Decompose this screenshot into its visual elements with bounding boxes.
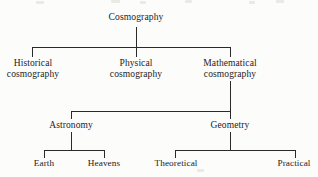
- edge-to-historical: [32, 47, 33, 57]
- scan-artifact: [197, 169, 204, 172]
- node-geometry: Geometry: [198, 120, 262, 130]
- scan-artifact: [140, 1, 146, 4]
- edge-to-practical: [295, 150, 296, 158]
- scan-artifact: [36, 1, 44, 4]
- scan-artifact: [276, 0, 284, 3]
- edge-to-earth: [44, 150, 45, 158]
- edge-level3-bus: [71, 111, 231, 112]
- node-astronomy: Astronomy: [39, 120, 103, 130]
- scan-artifact: [249, 1, 255, 4]
- node-cosmography: Cosmography: [96, 12, 176, 22]
- node-historical-cosmography: Historical cosmography: [2, 58, 64, 79]
- edge-mathematical-stem: [230, 81, 231, 112]
- edge-root-stem: [136, 27, 137, 48]
- edge-to-astronomy: [71, 111, 72, 119]
- scan-artifact: [111, 0, 120, 3]
- edge-geometry-bus: [175, 150, 296, 151]
- scan-artifact: [185, 0, 192, 3]
- edge-astronomy-stem: [71, 132, 72, 150]
- edge-to-heavens: [104, 150, 105, 158]
- node-practical: Practical: [270, 159, 318, 169]
- edge-geometry-stem: [230, 132, 231, 150]
- node-heavens: Heavens: [80, 159, 128, 169]
- edge-to-physical: [136, 47, 137, 57]
- node-mathematical-cosmography: Mathematical cosmography: [196, 58, 264, 79]
- edge-astronomy-bus: [44, 150, 105, 151]
- edge-to-theoretical: [175, 150, 176, 158]
- node-theoretical: Theoretical: [148, 159, 204, 169]
- node-physical-cosmography: Physical cosmography: [105, 58, 167, 79]
- edge-to-geometry: [230, 111, 231, 119]
- cosmography-tree-diagram: Cosmography Historical cosmography Physi…: [0, 0, 318, 177]
- node-earth: Earth: [22, 159, 66, 169]
- edge-level2-bus: [32, 47, 231, 48]
- edge-to-mathematical: [230, 47, 231, 57]
